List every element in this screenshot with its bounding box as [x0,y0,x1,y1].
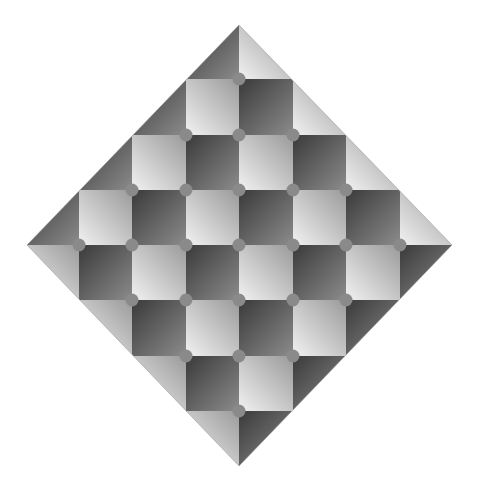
light-cell [186,79,240,136]
light-cell [293,190,347,246]
light-cell [25,24,80,80]
dark-cell [293,356,347,412]
dark-cell [79,356,133,412]
intersection-dot [394,239,407,252]
dark-cell [400,356,455,412]
dark-cell [132,79,187,136]
light-cell [400,190,455,246]
intersection-dot [340,239,353,252]
dark-cell [293,245,347,301]
intersection-dot [233,184,246,197]
intersection-dot [180,129,193,142]
dark-cell [25,79,80,136]
light-cell [400,79,455,136]
dark-cell [186,245,240,301]
dark-cell [186,24,240,80]
light-cell [293,411,347,467]
light-cell [400,411,455,467]
intersection-dot [233,405,246,418]
intersection-dot [287,239,300,252]
illusion-canvas [0,0,480,491]
intersection-dot [287,184,300,197]
intersection-dot [287,129,300,142]
light-cell [132,245,187,301]
light-cell [239,24,294,80]
intersection-dot [233,239,246,252]
light-cell [132,135,187,191]
dark-cell [346,190,401,246]
intersection-dot [180,184,193,197]
light-cell [400,300,455,357]
dark-cell [346,79,401,136]
dark-cell [132,300,187,357]
dark-cell [400,245,455,301]
dark-cell [132,411,187,467]
dark-cell [25,190,80,246]
light-cell [293,300,347,357]
dark-cell [79,245,133,301]
dark-cell [239,411,294,467]
intersection-dot [287,294,300,307]
light-cell [132,24,187,80]
light-cell [79,190,133,246]
intersection-dot [233,350,246,363]
dark-cell [346,411,401,467]
light-cell [346,135,401,191]
intersection-dot [180,294,193,307]
light-cell [79,79,133,136]
dark-cell [132,190,187,246]
dark-cell [25,411,80,467]
dark-cell [239,190,294,246]
dark-cell [239,300,294,357]
dark-cell [25,300,80,357]
light-cell [239,356,294,412]
light-cell [239,245,294,301]
intersection-dot [233,73,246,86]
intersection-dot [233,129,246,142]
light-cell [79,411,133,467]
intersection-dot [340,184,353,197]
light-cell [293,79,347,136]
light-cell [239,135,294,191]
dark-cell [346,300,401,357]
intersection-dot [180,239,193,252]
dark-cell [186,135,240,191]
dark-cell [186,356,240,412]
dark-cell [79,135,133,191]
light-cell [186,190,240,246]
light-cell [79,300,133,357]
intersection-dot [340,294,353,307]
intersection-dot [126,184,139,197]
light-cell [346,356,401,412]
dark-cell [239,79,294,136]
light-cell [25,356,80,412]
dark-cell [400,135,455,191]
checker-diamond-illusion [0,0,480,491]
light-cell [186,300,240,357]
light-cell [25,135,80,191]
intersection-dot [287,350,300,363]
light-cell [346,24,401,80]
intersection-dot [73,239,86,252]
intersection-dot [233,294,246,307]
intersection-dot [126,294,139,307]
dark-cell [400,24,455,80]
light-cell [346,245,401,301]
dark-cell [79,24,133,80]
dark-cell [293,135,347,191]
intersection-dot [180,350,193,363]
intersection-dot [126,239,139,252]
light-cell [25,245,80,301]
dark-cell [293,24,347,80]
